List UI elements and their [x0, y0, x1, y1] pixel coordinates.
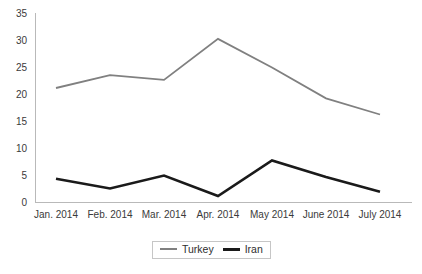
y-tick-label: 5: [21, 170, 27, 181]
y-axis-tick-labels: 35 30 25 20 15 10 5 0: [16, 8, 28, 208]
x-tick-label: Apr. 2014: [197, 209, 240, 220]
legend-entry-iran[interactable]: Iran: [223, 244, 263, 255]
series-line-turkey: [56, 39, 380, 115]
x-tick-label: July 2014: [359, 209, 402, 220]
line-chart: 35 30 25 20 15 10 5 0 Jan. 2014 Feb. 201…: [0, 0, 422, 274]
iran-line-swatch-icon: [223, 248, 240, 251]
y-tick-label: 0: [21, 197, 27, 208]
y-tick-label: 25: [16, 62, 28, 73]
plot-area: 35 30 25 20 15 10 5 0 Jan. 2014 Feb. 201…: [0, 0, 422, 274]
chart-legend: Turkey Iran: [152, 241, 271, 259]
legend-label-iran: Iran: [245, 244, 263, 255]
x-tick-label: May 2014: [250, 209, 294, 220]
x-axis-tick-labels: Jan. 2014 Feb. 2014 Mar. 2014 Apr. 2014 …: [34, 209, 402, 220]
y-tick-label: 35: [16, 8, 28, 19]
y-tick-label: 30: [16, 35, 28, 46]
x-tick-label: Jan. 2014: [34, 209, 78, 220]
x-tick-label: June 2014: [303, 209, 350, 220]
x-tick-label: Mar. 2014: [142, 209, 187, 220]
y-tick-label: 10: [16, 143, 28, 154]
legend-label-turkey: Turkey: [182, 244, 214, 255]
turkey-line-swatch-icon: [160, 248, 177, 250]
y-tick-label: 15: [16, 116, 28, 127]
series-line-iran: [56, 160, 380, 196]
chart-canvas: 35 30 25 20 15 10 5 0 Jan. 2014 Feb. 201…: [0, 0, 422, 274]
y-tick-label: 20: [16, 89, 28, 100]
x-tick-label: Feb. 2014: [87, 209, 132, 220]
legend-entry-turkey[interactable]: Turkey: [160, 244, 214, 255]
